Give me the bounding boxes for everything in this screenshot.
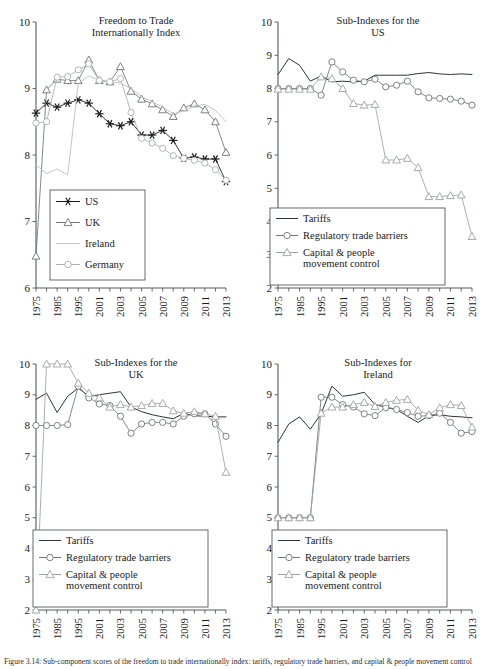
marker-circle (372, 413, 378, 419)
marker-circle (96, 401, 102, 407)
marker-circle (43, 119, 49, 125)
x-tick-label: 2009 (424, 296, 435, 317)
marker-circle (181, 155, 187, 161)
marker-circle (329, 59, 335, 65)
y-tick-label: 6 (267, 149, 273, 161)
x-tick-label: 2013 (221, 296, 232, 317)
marker-circle (138, 421, 144, 427)
legend-label: UK (85, 217, 101, 228)
legend-label-line2: movement control (66, 580, 143, 591)
marker-circle (170, 153, 176, 159)
y-tick-label: 8 (25, 419, 31, 431)
marker-triangle (169, 407, 177, 414)
x-tick-label: 2009 (424, 618, 435, 639)
marker-triangle (74, 77, 82, 84)
marker-circle (33, 422, 39, 428)
marker-triangle (317, 73, 325, 80)
marker-triangle (328, 403, 336, 410)
series-regulatory-trade-barriers (33, 383, 229, 439)
marker-triangle (350, 100, 358, 107)
chart-title-line: US (371, 27, 385, 38)
marker-circle (96, 77, 102, 83)
marker-circle (33, 120, 39, 126)
legend-label: Capital & people (303, 247, 375, 258)
x-tick-label: 2013 (467, 618, 478, 639)
y-tick-label: 9 (267, 49, 273, 61)
marker-circle (415, 413, 421, 419)
legend-label: Tariffs (305, 535, 333, 546)
chart-title-line: Sub-Indexes for the (95, 357, 178, 368)
marker-circle (361, 79, 367, 85)
x-tick-label: 1985 (295, 296, 306, 317)
marker-circle (318, 394, 324, 400)
marker-triangle (360, 399, 368, 406)
y-tick-label: 5 (25, 511, 31, 523)
marker-circle (383, 84, 389, 90)
chart-legend: TariffsRegulatory trade barriersCapital … (33, 530, 208, 607)
y-tick-label: 9 (25, 82, 31, 94)
x-axis-ticks: 1975198519952001200320052007200920112013 (273, 288, 478, 317)
marker-circle (212, 167, 218, 173)
figure-container: Freedom to TradeInternationally Index678… (0, 0, 485, 669)
chart-title-line: Ireland (363, 369, 393, 380)
chart-legend: TariffsRegulatory trade barriersCapital … (270, 208, 445, 285)
legend-label: Tariffs (66, 535, 94, 546)
marker-circle (160, 145, 166, 151)
chart-title: Sub-Indexes for theUS (337, 15, 420, 38)
chart-title: Sub-Indexes for theUK (95, 357, 178, 380)
x-tick-label: 2001 (338, 618, 349, 639)
x-tick-label: 2011 (200, 296, 211, 317)
marker-circle (47, 554, 53, 560)
y-tick-label: 5 (267, 182, 273, 194)
marker-triangle (32, 252, 40, 259)
marker-triangle (74, 379, 82, 386)
x-tick-label: 2005 (137, 296, 148, 317)
x-tick-label: 2007 (402, 618, 413, 639)
legend-label: Capital & people (66, 569, 138, 580)
marker-triangle (371, 101, 379, 108)
x-tick-label: 2013 (467, 296, 478, 317)
marker-circle (65, 73, 71, 79)
marker-triangle (447, 401, 455, 408)
y-tick-label: 9 (267, 388, 273, 400)
marker-triangle (190, 408, 198, 415)
marker-circle (138, 135, 144, 141)
y-tick-label: 8 (25, 149, 31, 161)
marker-triangle (64, 360, 72, 367)
chart-title-line: Internationally Index (92, 27, 181, 38)
marker-circle (393, 406, 399, 412)
figure-caption: Figure 3.14: Sub-component scores of the… (4, 657, 482, 667)
marker-circle (65, 421, 71, 427)
y-tick-label: 10 (261, 358, 273, 370)
x-tick-label: 1985 (295, 618, 306, 639)
chart-title-line: Sub-Indexes for the (337, 15, 420, 26)
marker-triangle (148, 399, 156, 406)
legend-label: Regulatory trade barriers (305, 552, 410, 563)
marker-circle (404, 78, 410, 84)
x-tick-label: 1975 (273, 296, 284, 317)
x-tick-label: 2003 (359, 618, 370, 639)
y-tick-label: 4 (25, 542, 31, 554)
y-tick-label: 3 (25, 573, 31, 585)
x-tick-label: 2007 (402, 296, 413, 317)
y-tick-label: 2 (267, 604, 273, 616)
marker-circle (469, 102, 475, 108)
legend-label: US (85, 196, 99, 207)
x-tick-label: 2005 (137, 618, 148, 639)
chart-title-line: Freedom to Trade (99, 15, 174, 26)
marker-circle (447, 419, 453, 425)
marker-triangle (159, 399, 167, 406)
y-tick-label: 10 (261, 16, 273, 28)
y-tick-label: 6 (25, 282, 31, 294)
marker-triangle (382, 156, 390, 163)
marker-triangle (117, 401, 125, 408)
x-tick-label: 1995 (73, 618, 84, 639)
y-tick-label: 10 (19, 358, 31, 370)
x-tick-label: 2011 (445, 296, 456, 317)
x-tick-label: 1995 (316, 618, 327, 639)
legend-label: Regulatory trade barriers (66, 552, 171, 563)
marker-triangle (43, 360, 51, 367)
y-tick-label: 9 (25, 388, 31, 400)
marker-circle (372, 76, 378, 82)
y-tick-label: 5 (267, 511, 273, 523)
